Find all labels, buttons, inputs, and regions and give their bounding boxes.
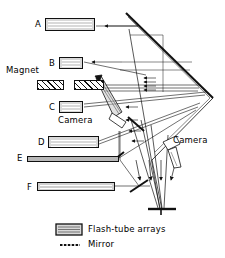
array-label-d: D — [38, 138, 45, 147]
diagram-canvas: A B C D E F Magnet Camera Camera Flash-t… — [0, 0, 225, 258]
fold-guides — [119, 131, 139, 186]
array-label-a: A — [35, 20, 41, 29]
array-label-f: F — [27, 183, 32, 192]
main-mirror-triangle — [120, 13, 213, 210]
flash-tube-array-b[interactable] — [59, 57, 83, 69]
flash-tube-array-e[interactable] — [27, 156, 119, 162]
array-label-e: E — [17, 154, 23, 163]
camera-label-lower: Camera — [173, 136, 208, 145]
legend-label-flash-tube-arrays: Flash-tube arrays — [88, 225, 166, 234]
legend-flashtube-swatch — [56, 224, 82, 235]
light-rays — [84, 26, 206, 186]
flash-tube-array-f[interactable] — [37, 182, 115, 191]
array-label-b: B — [49, 59, 55, 68]
flash-tube-array-a[interactable] — [45, 18, 95, 31]
bottom-apex-mirror — [148, 209, 176, 215]
camera-label-upper: Camera — [58, 116, 93, 125]
array-label-c: C — [49, 103, 55, 112]
magnet-block-left[interactable] — [37, 80, 64, 90]
converging-beam — [131, 120, 176, 208]
diagram-svg — [0, 0, 225, 258]
flash-tube-array-d[interactable] — [48, 136, 99, 148]
magnet-block-right[interactable] — [74, 80, 104, 90]
magnet-label: Magnet — [6, 66, 39, 75]
flash-tube-array-c[interactable] — [59, 101, 83, 113]
legend-label-mirror: Mirror — [88, 240, 114, 249]
lower-mirror-edge — [152, 98, 213, 160]
